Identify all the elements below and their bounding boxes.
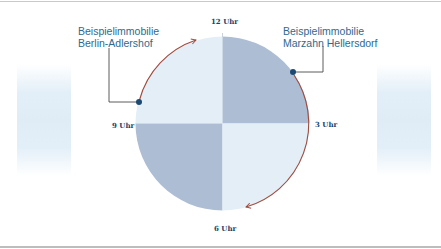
quadrant-bottom-left	[135, 124, 223, 212]
dot-adlershof	[136, 99, 142, 105]
callout-adlershof: Beispielimmobilie Berlin-Adlershof	[78, 25, 159, 49]
label-6-uhr: 6 Uhr	[214, 224, 236, 233]
callout-marzahn-line2: Marzahn Hellersdorf	[283, 37, 378, 49]
callout-adlershof-line2: Berlin-Adlershof	[78, 37, 159, 49]
callout-marzahn-line1: Beispielimmobilie	[283, 25, 378, 37]
label-12-uhr: 12 Uhr	[211, 17, 238, 26]
leader-line-marzahn	[293, 46, 323, 72]
leader-line-adlershof	[109, 48, 138, 102]
label-3-uhr: 3 Uhr	[315, 120, 337, 129]
callout-adlershof-line1: Beispielimmobilie	[78, 25, 159, 37]
callout-marzahn: Beispielimmobilie Marzahn Hellersdorf	[283, 25, 378, 49]
dot-marzahn	[290, 69, 296, 75]
label-9-uhr: 9 Uhr	[112, 121, 134, 130]
